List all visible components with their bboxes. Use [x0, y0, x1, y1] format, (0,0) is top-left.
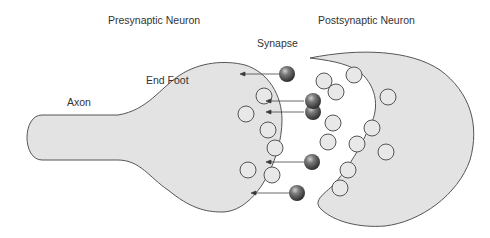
postsynaptic-neuron-label: Postsynaptic Neuron [318, 14, 415, 26]
synapse-label: Synapse [257, 37, 298, 49]
presynaptic-neuron-label: Presynaptic Neuron [108, 14, 200, 26]
axon-label: Axon [67, 96, 91, 108]
neurotransmitters [279, 66, 321, 201]
end-foot-label: End Foot [146, 74, 189, 86]
synapse-diagram [0, 0, 490, 238]
